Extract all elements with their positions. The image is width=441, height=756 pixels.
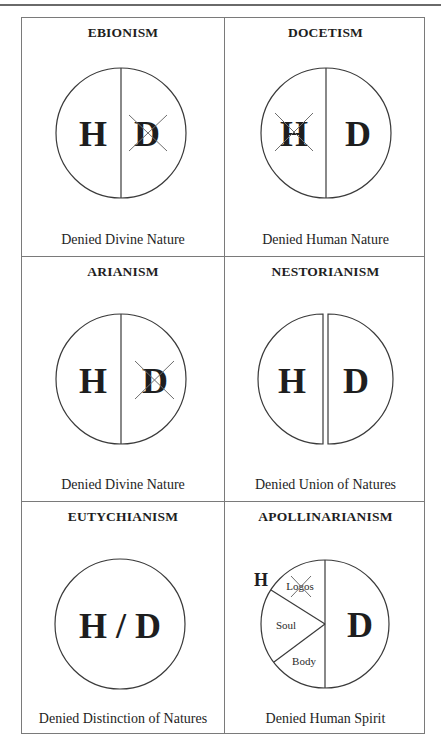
body-label: Body <box>292 655 316 667</box>
cell-apollinarianism: APOLLINARIANISM H Logos Soul Body D Deni… <box>225 502 426 735</box>
cell-caption: Denied Distinction of Natures <box>22 711 224 727</box>
split-circle-diagram: H D <box>22 257 224 501</box>
split-circle-diagram: H D <box>225 18 426 256</box>
cell-eutychianism: EUTYCHIANISM H / D Denied Distinction of… <box>22 502 224 735</box>
soul-label: Soul <box>276 619 296 631</box>
cell-nestorianism: NESTORIANISM H D Denied Union of Natures <box>225 257 426 501</box>
divine-label: D <box>345 114 371 154</box>
cell-caption: Denied Human Nature <box>225 232 426 248</box>
separated-halves-diagram: H D <box>225 257 426 501</box>
top-rule <box>0 4 441 6</box>
cell-caption: Denied Divine Nature <box>22 232 224 248</box>
heresies-grid: EBIONISM H D Denied Divine Nature DOCETI… <box>21 17 425 734</box>
cell-caption: Denied Divine Nature <box>22 477 224 493</box>
cell-ebionism: EBIONISM H D Denied Divine Nature <box>22 18 224 256</box>
human-label: H <box>280 114 308 154</box>
merged-label: H / D <box>79 606 161 646</box>
divine-label: D <box>347 605 373 645</box>
human-label: H <box>254 570 268 590</box>
cell-caption: Denied Human Spirit <box>225 711 426 727</box>
divine-label: D <box>343 361 369 401</box>
human-label: H <box>79 114 107 154</box>
human-label: H <box>79 361 107 401</box>
human-label: H <box>278 361 306 401</box>
cell-docetism: DOCETISM H D Denied Human Nature <box>225 18 426 256</box>
cell-caption: Denied Union of Natures <box>225 477 426 493</box>
segmented-circle-diagram: H Logos Soul Body D <box>225 502 426 735</box>
split-circle-diagram: H D <box>22 18 224 256</box>
cell-arianism: ARIANISM H D Denied Divine Nature <box>22 257 224 501</box>
merged-circle-diagram: H / D <box>22 502 224 735</box>
